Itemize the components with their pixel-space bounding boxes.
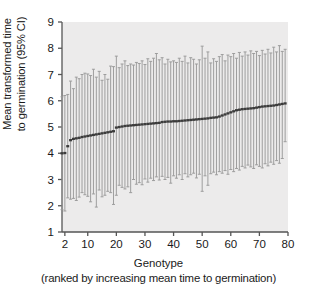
mean-marker [206, 117, 209, 119]
y-axis-tick-label: 9 [48, 16, 54, 28]
mean-marker [266, 105, 269, 107]
x-axis-tick-label: 2 [62, 238, 68, 250]
mean-marker [192, 119, 195, 121]
x-axis-tick-label: 10 [81, 238, 94, 250]
mean-marker [172, 120, 175, 122]
mean-marker [163, 121, 166, 123]
mean-marker [66, 145, 69, 147]
mean-marker [149, 122, 152, 124]
mean-marker [215, 116, 218, 118]
mean-marker [112, 130, 115, 132]
mean-marker [184, 119, 187, 121]
x-axis-label: Genotype [0, 256, 317, 271]
x-axis-tick-label: 50 [196, 238, 209, 250]
x-axis-label-group: Genotype (ranked by increasing mean time… [0, 256, 317, 286]
mean-marker [209, 117, 212, 119]
mean-marker [201, 118, 204, 120]
mean-marker [249, 107, 252, 109]
mean-marker [61, 152, 64, 154]
mean-marker [246, 108, 249, 110]
y-axis-tick-label: 2 [48, 200, 54, 212]
mean-marker [69, 139, 72, 141]
y-axis-tick-label: 1 [48, 226, 54, 238]
mean-marker [72, 138, 75, 140]
mean-marker [141, 123, 144, 125]
mean-marker [121, 125, 124, 127]
mean-marker [158, 122, 161, 124]
mean-marker [261, 105, 264, 107]
mean-marker [181, 120, 184, 122]
mean-marker [269, 105, 272, 107]
mean-marker [106, 131, 109, 133]
mean-marker [175, 120, 178, 122]
mean-marker [63, 152, 66, 154]
mean-marker [78, 137, 81, 139]
mean-marker [224, 113, 227, 115]
mean-marker [272, 104, 275, 106]
mean-marker [235, 109, 238, 111]
mean-marker [255, 106, 258, 108]
mean-marker [284, 102, 287, 104]
y-axis-label: Mean transformed time to germination (95… [1, 0, 41, 174]
y-axis-tick-label: 4 [48, 147, 55, 159]
mean-marker [86, 135, 89, 137]
mean-marker [115, 126, 118, 128]
y-axis-tick-label: 6 [48, 95, 54, 107]
x-axis-tick-label: 30 [139, 238, 152, 250]
x-axis-sublabel: (ranked by increasing mean time to germi… [0, 271, 317, 286]
mean-marker [252, 107, 255, 109]
mean-marker [75, 137, 78, 139]
mean-marker [229, 111, 232, 113]
mean-marker [264, 105, 267, 107]
mean-marker [109, 131, 112, 133]
mean-marker [169, 120, 172, 122]
mean-marker [281, 103, 284, 105]
mean-marker [166, 120, 169, 122]
mean-marker [132, 124, 135, 126]
mean-marker [129, 124, 132, 126]
mean-marker [101, 132, 104, 134]
mean-marker [135, 124, 138, 126]
mean-marker [143, 123, 146, 125]
x-axis-tick-label: 70 [253, 238, 266, 250]
mean-marker [226, 112, 229, 114]
mean-marker [195, 118, 198, 120]
mean-marker [138, 124, 141, 126]
mean-marker [118, 126, 121, 128]
mean-marker [178, 120, 181, 122]
mean-marker [152, 122, 155, 124]
mean-marker [221, 114, 224, 116]
x-axis-tick-label: 20 [110, 238, 123, 250]
mean-marker [103, 132, 106, 134]
mean-marker [212, 116, 215, 118]
mean-marker [232, 110, 235, 112]
mean-marker [161, 121, 164, 123]
y-axis-tick-label: 3 [48, 174, 54, 186]
mean-marker [189, 119, 192, 121]
mean-marker [123, 125, 126, 127]
x-axis-tick-label: 40 [167, 238, 180, 250]
mean-marker [95, 133, 98, 135]
y-axis-tick-label: 8 [48, 42, 54, 54]
mean-marker [218, 115, 221, 117]
germination-errorbar-chart: Mean transformed time to germination (95… [0, 0, 317, 299]
mean-marker [198, 118, 201, 120]
x-axis-tick-label: 60 [224, 238, 237, 250]
y-axis-tick-label: 5 [48, 121, 54, 133]
mean-marker [146, 123, 149, 125]
mean-marker [204, 118, 207, 120]
mean-marker [241, 108, 244, 110]
mean-marker [92, 134, 95, 136]
mean-marker [155, 122, 158, 124]
mean-marker [244, 108, 247, 110]
mean-marker [186, 119, 189, 121]
x-axis-tick-label: 80 [282, 238, 295, 250]
mean-marker [126, 125, 129, 127]
mean-marker [275, 104, 278, 106]
mean-marker [238, 109, 241, 111]
mean-marker [89, 134, 92, 136]
mean-marker [83, 135, 86, 137]
plot-area: 12345678921020304050607080 [0, 0, 317, 299]
mean-marker [278, 103, 281, 105]
y-axis-tick-label: 7 [48, 69, 54, 81]
